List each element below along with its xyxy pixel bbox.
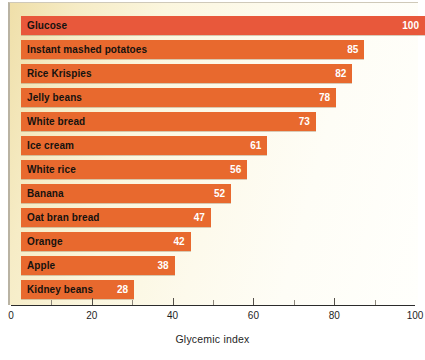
x-axis-line bbox=[11, 305, 415, 306]
bar-category-label: Ice cream bbox=[27, 136, 74, 155]
bar-value-label: 52 bbox=[205, 184, 225, 203]
bar-value-label: 38 bbox=[149, 256, 169, 275]
bar-value-label: 56 bbox=[221, 160, 241, 179]
x-tick-label: 0 bbox=[8, 310, 14, 321]
x-tick-mark bbox=[173, 298, 174, 305]
bar-category-label: Instant mashed potatoes bbox=[27, 40, 147, 59]
bar-row: Glucose100 bbox=[21, 16, 425, 35]
bar-value-label: 82 bbox=[326, 64, 346, 83]
bar-category-label: Apple bbox=[27, 256, 55, 275]
x-minor-tick-mark bbox=[213, 300, 214, 305]
bar-row: Instant mashed potatoes85 bbox=[21, 40, 425, 59]
x-axis-title: Glycemic index bbox=[0, 333, 425, 345]
bar-category-label: White rice bbox=[27, 160, 76, 179]
x-tick-label: 100 bbox=[407, 310, 424, 321]
x-tick-mark bbox=[334, 298, 335, 305]
bar-category-label: White bread bbox=[27, 112, 85, 131]
x-minor-tick-mark bbox=[51, 300, 52, 305]
bar-value-label: 61 bbox=[241, 136, 261, 155]
bars-area: Glucose100Instant mashed potatoes85Rice … bbox=[21, 16, 425, 305]
x-minor-tick-mark bbox=[294, 300, 295, 305]
bar-value-label: 73 bbox=[290, 112, 310, 131]
bar-value-label: 28 bbox=[108, 280, 128, 299]
bar-row: Ice cream61 bbox=[21, 136, 425, 155]
bar-value-label: 42 bbox=[165, 232, 185, 251]
x-tick-label: 40 bbox=[167, 310, 178, 321]
bar-row: Apple38 bbox=[21, 256, 425, 275]
bar-row: Rice Krispies82 bbox=[21, 64, 425, 83]
bar bbox=[21, 16, 425, 35]
bar-value-label: 85 bbox=[338, 40, 358, 59]
bar-category-label: Orange bbox=[27, 232, 63, 251]
bar-row: Banana52 bbox=[21, 184, 425, 203]
bar-row: White rice56 bbox=[21, 160, 425, 179]
bar-category-label: Rice Krispies bbox=[27, 64, 92, 83]
bar-value-label: 100 bbox=[399, 16, 419, 35]
bar-category-label: Glucose bbox=[27, 16, 67, 35]
x-tick-label: 20 bbox=[86, 310, 97, 321]
bar-row: Kidney beans28 bbox=[21, 280, 425, 299]
x-tick-label: 80 bbox=[329, 310, 340, 321]
bar-category-label: Jelly beans bbox=[27, 88, 82, 107]
x-tick-mark bbox=[92, 298, 93, 305]
bar-row: Jelly beans78 bbox=[21, 88, 425, 107]
x-minor-tick-mark bbox=[375, 300, 376, 305]
bar-category-label: Oat bran bread bbox=[27, 208, 100, 227]
plot-panel: Glucose100Instant mashed potatoes85Rice … bbox=[8, 2, 418, 305]
x-tick-mark bbox=[253, 298, 254, 305]
bar-category-label: Banana bbox=[27, 184, 64, 203]
bar-row: Orange42 bbox=[21, 232, 425, 251]
bar-row: White bread73 bbox=[21, 112, 425, 131]
bar-row: Oat bran bread47 bbox=[21, 208, 425, 227]
x-tick-label: 60 bbox=[248, 310, 259, 321]
x-minor-tick-mark bbox=[132, 300, 133, 305]
bar-value-label: 47 bbox=[185, 208, 205, 227]
bar-category-label: Kidney beans bbox=[27, 280, 93, 299]
bar-value-label: 78 bbox=[310, 88, 330, 107]
glycemic-index-bar-chart: Glucose100Instant mashed potatoes85Rice … bbox=[0, 0, 425, 360]
